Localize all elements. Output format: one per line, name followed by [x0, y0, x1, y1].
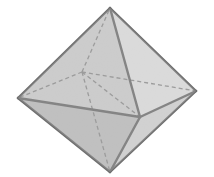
octahedron-figure: [0, 0, 214, 177]
octahedron-drawing: [0, 0, 214, 177]
